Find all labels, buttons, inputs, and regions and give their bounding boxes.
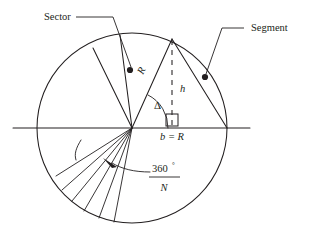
angle-fraction-numerator: 360 bbox=[152, 163, 168, 174]
geometry-diagram: Sector Segment R h Δ b = R 360 ° N bbox=[0, 0, 314, 232]
sector-label: Sector bbox=[44, 11, 71, 22]
sector-radius-right bbox=[120, 35, 132, 128]
fan-line-3 bbox=[72, 128, 132, 201]
fan-line-1 bbox=[56, 128, 132, 176]
height-label: h bbox=[180, 83, 185, 94]
delta-angle-label: Δ bbox=[154, 99, 161, 111]
radius-label: R bbox=[134, 65, 147, 77]
fan-line-5 bbox=[99, 128, 132, 218]
degree-symbol-icon: ° bbox=[172, 161, 175, 169]
base-label: b = R bbox=[160, 131, 185, 142]
figure-container: Sector Segment R h Δ b = R 360 ° N bbox=[0, 0, 314, 232]
angle-fraction-denominator: N bbox=[159, 182, 168, 193]
fan-line-4 bbox=[84, 128, 132, 211]
sector-radius-left bbox=[93, 48, 132, 128]
segment-label: Segment bbox=[251, 22, 288, 33]
angle-leader-arc-upper bbox=[75, 140, 81, 160]
segment-leader-line bbox=[206, 28, 244, 74]
sector-marker-dot bbox=[127, 67, 133, 73]
segment-marker-dot bbox=[202, 74, 208, 80]
